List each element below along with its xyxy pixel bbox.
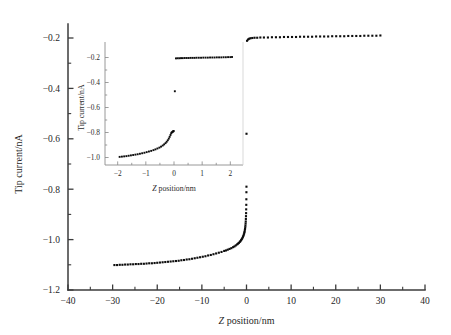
inset-group: −2−1012 −0.2−0.4−0.6−0.8−1.0 xyxy=(87,42,243,178)
inset-y-tick-label: −0.2 xyxy=(87,53,101,62)
inset-data-point xyxy=(170,134,172,136)
inset-data-point xyxy=(207,57,209,59)
data-point xyxy=(331,35,333,37)
main-x-tick-label: −30 xyxy=(105,296,120,306)
data-point xyxy=(137,263,139,265)
data-point xyxy=(244,224,246,226)
data-point xyxy=(283,36,285,38)
inset-data-point xyxy=(119,156,121,158)
data-point xyxy=(154,262,156,264)
main-x-tick-label: 10 xyxy=(286,296,296,306)
data-point xyxy=(135,263,137,265)
inset-data-point xyxy=(225,56,227,58)
data-point xyxy=(143,263,145,265)
data-point xyxy=(245,218,247,220)
data-point xyxy=(199,256,201,258)
inset-y-tick-label: −0.6 xyxy=(87,103,101,112)
data-point xyxy=(220,251,222,253)
inset-x-tick-label: 2 xyxy=(228,169,232,178)
data-point xyxy=(327,35,329,37)
main-x-tick-label: −40 xyxy=(61,296,76,306)
data-point xyxy=(347,35,349,37)
inset-data-point xyxy=(125,155,127,157)
inset-x-tick-label: 0 xyxy=(172,169,176,178)
data-point xyxy=(275,36,277,38)
inset-data-point xyxy=(184,57,186,59)
data-point xyxy=(267,36,269,38)
inset-data-point xyxy=(218,56,220,58)
inset-data-point xyxy=(198,57,200,59)
inset-data-point xyxy=(169,136,171,138)
data-point xyxy=(291,36,293,38)
data-point xyxy=(245,215,247,217)
main-y-tick-label: −1.0 xyxy=(43,235,60,245)
data-point xyxy=(245,191,247,193)
inset-data-point xyxy=(123,155,125,157)
data-point xyxy=(207,254,209,256)
data-point xyxy=(167,261,169,263)
data-point xyxy=(210,254,212,256)
inset-data-point xyxy=(188,57,190,59)
data-point xyxy=(218,252,220,254)
inset-data-point xyxy=(141,152,143,154)
main-y-tick-label: −1.2 xyxy=(43,285,60,295)
data-point xyxy=(303,36,305,38)
data-point-outlier xyxy=(245,133,247,135)
data-point xyxy=(359,35,361,37)
data-point xyxy=(245,222,247,224)
inset-data-point xyxy=(143,152,145,154)
data-point xyxy=(188,258,190,260)
data-point xyxy=(191,258,193,260)
data-point xyxy=(116,264,118,266)
main-x-axis-ticks xyxy=(68,285,425,291)
data-point xyxy=(287,36,289,38)
data-point xyxy=(140,263,142,265)
inset-y-axis-title: Tip current/nA xyxy=(77,84,86,131)
data-point xyxy=(172,260,174,262)
inset-data-point xyxy=(156,148,158,150)
data-point xyxy=(124,263,126,265)
inset-data-point xyxy=(209,57,211,59)
data-point xyxy=(299,36,301,38)
inset-data-point xyxy=(139,153,141,155)
inset-data-point xyxy=(192,57,194,59)
data-point xyxy=(119,264,121,266)
inset-data-point xyxy=(180,57,182,59)
data-point xyxy=(245,186,247,188)
inset-data-point xyxy=(152,149,154,151)
data-point xyxy=(253,37,255,39)
main-y-axis-title: Tip current/nA xyxy=(13,134,24,194)
data-point xyxy=(175,260,177,262)
data-point xyxy=(145,262,147,264)
main-y-tick-label: −0.2 xyxy=(43,33,60,43)
inset-data-point xyxy=(132,154,134,156)
data-point xyxy=(202,256,204,258)
inset-x-tick-label: 1 xyxy=(200,169,204,178)
inset-data-point xyxy=(177,57,179,59)
data-point xyxy=(183,259,185,261)
inset-x-tick-label: −2 xyxy=(114,169,122,178)
data-point xyxy=(319,35,321,37)
data-point xyxy=(204,255,206,257)
main-x-axis-tick-labels: −40−30−20−10010203040 xyxy=(61,296,430,306)
data-point xyxy=(379,34,381,36)
chart-canvas: −40−30−20−10010203040 −0.2−0.4−0.6−0.8−1… xyxy=(0,0,451,335)
inset-data-point xyxy=(202,57,204,59)
inset-data-point xyxy=(148,151,150,153)
inset-data-point xyxy=(182,57,184,59)
inset-data-point xyxy=(134,154,136,156)
inset-data-point xyxy=(121,156,123,158)
data-point xyxy=(164,261,166,263)
inset-data-point xyxy=(186,57,188,59)
data-point xyxy=(375,35,377,37)
data-point xyxy=(180,259,182,261)
data-point xyxy=(127,263,129,265)
main-x-tick-label: 0 xyxy=(244,296,249,306)
inset-data-point xyxy=(160,146,162,148)
data-point xyxy=(256,37,258,39)
data-point xyxy=(251,37,253,39)
main-x-tick-label: −10 xyxy=(194,296,209,306)
main-x-tick-label: 40 xyxy=(420,296,430,306)
main-y-tick-label: −0.8 xyxy=(43,185,60,195)
data-point xyxy=(367,35,369,37)
